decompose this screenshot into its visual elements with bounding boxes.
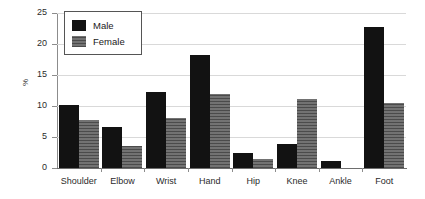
bar-male-elbow (102, 127, 122, 168)
legend-item-female: Female (72, 33, 141, 49)
bar-male-ankle (321, 161, 341, 168)
bar-group (321, 13, 361, 168)
bar-male-shoulder (59, 105, 79, 168)
bar-female-hand (210, 94, 230, 168)
y-tick-label: 25 (17, 8, 47, 17)
female-swatch-icon (72, 36, 86, 47)
bar-chart: % 0510152025 ShoulderElbowWristHandHipKn… (0, 0, 425, 199)
bar-group (190, 13, 230, 168)
y-tick-mark (52, 106, 57, 107)
bar-female-shoulder (79, 120, 99, 168)
bar-male-foot (364, 27, 384, 168)
y-tick-label: 15 (17, 70, 47, 79)
y-tick-label: 5 (17, 132, 47, 141)
y-tick-mark (52, 168, 57, 169)
y-tick-mark (52, 137, 57, 138)
bar-male-hand (190, 55, 210, 168)
x-tick-mark (232, 168, 233, 172)
x-tick-mark (188, 168, 189, 172)
bar-group (146, 13, 186, 168)
x-tick-label: Foot (349, 176, 419, 186)
bar-female-wrist (166, 118, 186, 168)
bar-group (233, 13, 273, 168)
x-tick-mark (101, 168, 102, 172)
y-tick-mark (52, 13, 57, 14)
chart-legend: Male Female (64, 11, 142, 55)
y-tick-label: 0 (17, 163, 47, 172)
bar-female-elbow (122, 146, 142, 168)
male-swatch-icon (72, 20, 86, 31)
x-tick-mark (319, 168, 320, 172)
legend-item-label: Female (93, 36, 125, 47)
bar-group (364, 13, 404, 168)
x-tick-mark (362, 168, 363, 172)
bar-female-hip (253, 159, 273, 168)
y-tick-label: 20 (17, 39, 47, 48)
bar-male-wrist (146, 92, 166, 168)
bar-female-foot (384, 103, 404, 168)
x-tick-mark (144, 168, 145, 172)
y-tick-mark (52, 44, 57, 45)
bar-male-hip (233, 153, 253, 169)
legend-item-male: Male (72, 17, 141, 33)
bar-female-knee (297, 99, 317, 168)
x-tick-mark (275, 168, 276, 172)
bar-group (277, 13, 317, 168)
legend-item-label: Male (93, 20, 114, 31)
bar-male-knee (277, 144, 297, 168)
y-tick-mark (52, 75, 57, 76)
y-tick-label: 10 (17, 101, 47, 110)
